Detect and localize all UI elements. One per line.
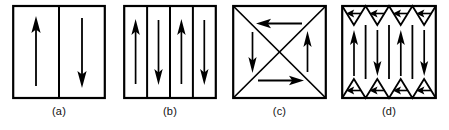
panel-c-arrow-right-icon bbox=[258, 76, 304, 85]
panel-d-arrow-down-icon-2 bbox=[420, 30, 428, 76]
panel-c-diagram bbox=[232, 0, 327, 100]
panel-d: (d) bbox=[341, 0, 437, 130]
panel-b: (b) bbox=[123, 0, 217, 130]
panel-c-arrow-down-icon bbox=[248, 32, 256, 73]
panel-d-arrow-down-icon-1 bbox=[373, 30, 381, 76]
panel-b-arrow-down-icon-1 bbox=[154, 20, 162, 85]
panel-c-arrow-left-icon bbox=[256, 19, 302, 28]
panel-a-arrow-up-icon bbox=[31, 16, 40, 86]
panel-d-label: (d) bbox=[341, 106, 437, 117]
figure-magnetic-domains: (a) bbox=[0, 0, 449, 130]
panel-d-diagram bbox=[341, 0, 437, 100]
panel-b-arrow-down-icon-2 bbox=[200, 20, 208, 85]
panel-a-diagram bbox=[12, 0, 106, 100]
panel-c-arrow-up-icon bbox=[303, 31, 311, 72]
panel-b-arrow-up-icon-1 bbox=[131, 19, 139, 84]
panel-b-arrow-up-icon-2 bbox=[177, 19, 185, 84]
panel-d-arrow-up-icon-2 bbox=[397, 30, 405, 76]
panel-a: (a) bbox=[12, 0, 106, 130]
panel-c-label: (c) bbox=[232, 106, 327, 117]
panel-c: (c) bbox=[232, 0, 327, 130]
panel-b-label: (b) bbox=[123, 106, 217, 117]
panel-b-diagram bbox=[123, 0, 217, 100]
panel-d-arrow-up-icon-1 bbox=[350, 30, 358, 76]
panel-a-arrow-down-icon bbox=[77, 18, 86, 88]
panel-a-label: (a) bbox=[12, 106, 106, 117]
